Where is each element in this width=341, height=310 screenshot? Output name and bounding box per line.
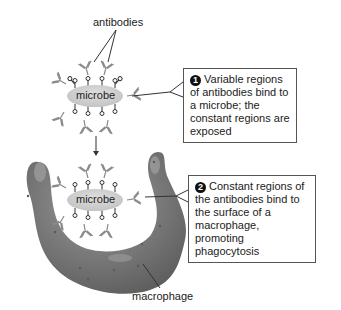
microbe-label-top: microbe: [76, 89, 115, 101]
callout-text: Constant regions of the antibodies bind …: [195, 180, 304, 257]
antibody-opsonization-diagram: antibodies microbe microbe macrophage 1V…: [0, 0, 341, 310]
process-arrow: [93, 136, 99, 156]
antibodies-label: antibodies: [93, 16, 143, 28]
macrophage-label: macrophage: [132, 290, 193, 302]
diagram-artwork: [0, 0, 341, 310]
callout-step-1: 1Variable regions of antibodies bind to …: [183, 68, 297, 143]
step-number-badge: 1: [190, 75, 201, 86]
callout-step-2: 2Constant regions of the antibodies bind…: [188, 175, 316, 263]
callout-text: Variable regions of antibodies bind to a…: [190, 73, 290, 137]
top-microbe-group: [51, 30, 183, 134]
step-number-badge: 2: [195, 182, 206, 193]
macrophage-shape: [27, 152, 186, 294]
microbe-label-bottom: microbe: [76, 193, 115, 205]
